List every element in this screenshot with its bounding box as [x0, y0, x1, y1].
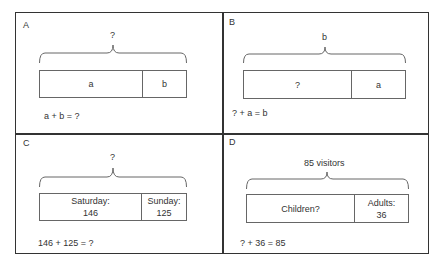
tape-bar: Children? Adults: 36 [246, 194, 409, 223]
brace-label: ? [110, 152, 115, 162]
panel-label: A [23, 20, 29, 30]
panel-label: D [229, 137, 236, 147]
horizontal-divider [15, 133, 429, 135]
bar-segment-saturday: Saturday: 146 [40, 194, 141, 220]
segment-title: Saturday: [71, 195, 110, 207]
bar-segment-unknown: ? [244, 71, 351, 98]
segment-value: 146 [83, 207, 98, 219]
equation: ? + 36 = 85 [240, 238, 286, 248]
bar-segment-sunday: Sunday: 125 [141, 194, 186, 220]
panel-label: C [23, 138, 30, 148]
bar-segment-children: Children? [247, 195, 354, 222]
tape-bar: a b [39, 70, 187, 98]
segment-value: 125 [156, 207, 171, 219]
bar-segment-b: b [142, 71, 186, 97]
curly-brace-icon [243, 46, 406, 64]
equation: a + b = ? [44, 111, 80, 121]
curly-brace-icon [246, 170, 409, 190]
segment-title: Sunday: [147, 195, 180, 207]
bar-segment-a: a [40, 71, 142, 97]
segment-value: 36 [376, 209, 386, 221]
brace-label: b [322, 32, 327, 42]
tape-bar: Saturday: 146 Sunday: 125 [39, 193, 187, 221]
curly-brace-icon [39, 44, 187, 64]
curly-brace-icon [39, 166, 187, 188]
tape-bar: ? a [243, 70, 406, 99]
brace-label: ? [110, 30, 115, 40]
bar-segment-a: a [351, 71, 405, 98]
equation: 146 + 125 = ? [38, 238, 94, 248]
brace-label: 85 visitors [304, 158, 345, 168]
bar-segment-adults: Adults: 36 [354, 195, 408, 222]
segment-title: Adults: [368, 197, 396, 209]
equation: ? + a = b [232, 108, 268, 118]
panel-label: B [229, 17, 235, 27]
